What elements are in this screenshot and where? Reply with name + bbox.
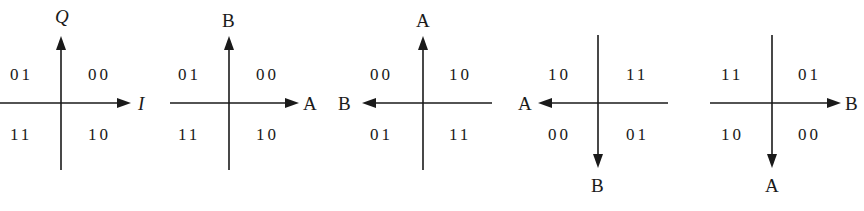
b-axis-arrow-icon	[224, 36, 234, 50]
quadrant-bottom-right: 11	[449, 125, 471, 144]
diagram-ab-2: B A 00 10 01 11	[338, 10, 492, 170]
quadrant-bottom-left: 01	[370, 125, 393, 144]
a-axis-arrow-icon	[418, 36, 428, 50]
quadrant-top-left: 00	[370, 65, 393, 84]
constellation-diagrams: I Q 01 00 11 10 A B 01 00 11 10 B A 00 1…	[0, 0, 864, 211]
quadrant-bottom-left: 10	[721, 125, 744, 144]
quadrant-top-right: 01	[798, 65, 821, 84]
a-axis-arrow-icon	[285, 98, 299, 108]
diagram-ab-1: A B 01 00 11 10	[170, 10, 317, 170]
quadrant-bottom-right: 01	[626, 125, 649, 144]
i-axis-arrow-icon	[117, 98, 131, 108]
y-axis-label: A	[416, 10, 430, 31]
quadrant-top-right: 00	[88, 65, 111, 84]
diagram-ab-3: A B 10 11 00 01	[518, 35, 668, 196]
diagram-ab-4: B A 11 01 10 00	[710, 35, 858, 196]
q-axis-arrow-icon	[56, 36, 66, 50]
x-axis-label: A	[518, 93, 532, 114]
a-axis-arrow-icon	[767, 154, 777, 168]
quadrant-bottom-left: 11	[10, 125, 32, 144]
quadrant-top-left: 11	[721, 65, 743, 84]
q-axis-label: Q	[55, 6, 69, 27]
quadrant-bottom-left: 11	[178, 125, 200, 144]
a-axis-arrow-icon	[538, 98, 552, 108]
quadrant-bottom-right: 00	[798, 125, 821, 144]
quadrant-top-left: 01	[10, 65, 33, 84]
i-axis-label: I	[137, 93, 146, 114]
b-axis-arrow-icon	[593, 154, 603, 168]
quadrant-top-left: 10	[548, 65, 571, 84]
y-axis-label: B	[222, 10, 235, 31]
x-axis-label: B	[338, 93, 351, 114]
b-axis-arrow-icon	[362, 98, 376, 108]
quadrant-top-right: 10	[449, 65, 472, 84]
quadrant-top-right: 11	[626, 65, 648, 84]
diagram-iq: I Q 01 00 11 10	[0, 6, 146, 170]
quadrant-bottom-left: 00	[548, 125, 571, 144]
b-axis-arrow-icon	[827, 98, 841, 108]
quadrant-top-right: 00	[256, 65, 279, 84]
quadrant-top-left: 01	[178, 65, 201, 84]
x-axis-label: A	[303, 93, 317, 114]
y-axis-label: A	[765, 175, 779, 196]
quadrant-bottom-right: 10	[256, 125, 279, 144]
x-axis-label: B	[845, 93, 858, 114]
quadrant-bottom-right: 10	[88, 125, 111, 144]
y-axis-label: B	[591, 175, 604, 196]
